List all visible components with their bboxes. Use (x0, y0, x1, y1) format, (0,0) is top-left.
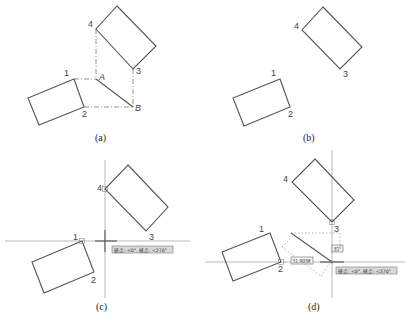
vertex-label-2: 2 (278, 264, 283, 274)
vertex-label-1: 1 (73, 232, 78, 242)
point-label-A: A (98, 72, 105, 82)
vertex-label-3: 3 (334, 224, 339, 234)
rectangle-upper (105, 165, 168, 231)
polar-tracking-tooltip-text: 極点: <0°, 極点: <270° (114, 247, 167, 254)
caption-b: (b) (303, 132, 315, 144)
figure-canvas: 4 3 1 2 A B (a) 4 3 1 2 (b) 極点: <0°, 極点:… (0, 0, 405, 319)
rectangle-lower (233, 79, 290, 126)
vertex-label-4: 4 (283, 174, 288, 184)
vertex-label-3: 3 (343, 69, 348, 79)
panel-d: 35° 31.9038 極点: <0°, 極点: <270° 4 3 1 2 (… (205, 150, 405, 313)
dimension-length-value: 31.9038 (293, 258, 311, 264)
vertex-label-1: 1 (64, 68, 69, 78)
vertex-label-4: 4 (88, 19, 93, 29)
caption-a: (a) (95, 132, 106, 144)
point-label-B: B (135, 103, 141, 113)
rectangle-lower (32, 241, 94, 293)
rectangle-lower (222, 233, 281, 281)
vertex-label-4: 4 (294, 21, 299, 31)
rectangle-upper (96, 6, 156, 69)
vertex-label-4: 4 (97, 183, 102, 193)
dimension-line-upper (282, 236, 293, 247)
vertex-label-2: 2 (288, 109, 293, 119)
panel-b: 4 3 1 2 (b) (233, 7, 362, 144)
panel-c: 極点: <0°, 極点: <270° 4 3 1 2 (c) (5, 160, 190, 313)
rectangle-lower (28, 79, 84, 125)
dimension-angle-value: 35° (334, 246, 342, 252)
line-A-B (96, 79, 133, 107)
rectangle-upper (302, 7, 362, 69)
vertex-label-1: 1 (259, 224, 264, 234)
caption-c: (c) (96, 301, 107, 313)
vertex-label-3: 3 (136, 66, 141, 76)
vertex-label-1: 1 (271, 68, 276, 78)
dimension-line-end (321, 262, 331, 276)
vertex-label-2: 2 (82, 109, 87, 119)
panel-a: 4 3 1 2 A B (a) (28, 6, 156, 144)
caption-d: (d) (308, 301, 320, 313)
vertex-label-3: 3 (149, 232, 154, 242)
rectangle-upper (292, 159, 354, 222)
polar-tracking-tooltip-text: 極点: <0°, 極点: <270° (338, 268, 391, 275)
vertex-label-2: 2 (91, 275, 96, 285)
